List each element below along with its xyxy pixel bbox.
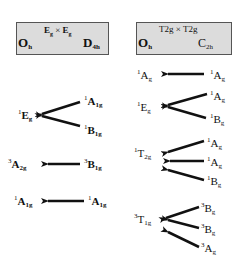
left-source-3B1g: 3B1g: [84, 158, 102, 172]
left-source-1B1g: 1B1g: [84, 124, 102, 138]
left-source-group: D4h: [83, 36, 100, 51]
right-source-3Ag: 3Ag: [201, 242, 216, 256]
right-source-1Ag-a: 1Ag: [210, 69, 225, 83]
right-target-1T2g: 1T2g: [134, 147, 151, 161]
right-product-label: T2g × T2g: [159, 24, 197, 34]
right-target-1Eg: 1Eg: [137, 101, 151, 115]
left-source-1A1g-bottom: 1A1g: [88, 195, 106, 209]
right-source-3Bg-a: 3Bg: [201, 202, 215, 216]
left-target-1Eg: 1Eg: [18, 109, 32, 123]
right-source-1Ag-c: 1Ag: [207, 137, 222, 151]
left-product-label: Eg × Eg: [44, 25, 72, 37]
right-source-group: C2h: [198, 37, 213, 51]
right-target-1Ag: 1Ag: [137, 69, 152, 83]
right-source-1Ag-b: 1Ag: [210, 90, 225, 104]
left-target-3A2g: 3A2g: [8, 158, 26, 172]
right-source-1Bg-b: 1Bg: [207, 175, 221, 189]
right-source-1Bg-a: 1Bg: [210, 113, 224, 127]
right-source-1Ag-d: 1Ag: [207, 156, 222, 170]
right-target-3T1g: 3T1g: [134, 213, 151, 227]
right-target-group: Oh: [138, 36, 152, 51]
left-target-1A1g: 1A1g: [14, 195, 32, 209]
right-source-3Bg-b: 3Bg: [201, 223, 215, 237]
left-target-group: Oh: [18, 36, 32, 51]
left-source-1A1g: 1A1g: [84, 95, 102, 109]
